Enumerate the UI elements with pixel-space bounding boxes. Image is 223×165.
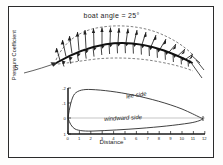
svg-text:0: 0: [64, 116, 67, 121]
x-axis-label: Distance: [0, 138, 223, 145]
svg-text:-2: -2: [62, 86, 66, 91]
figure-container: boat angle = 25° S: [0, 0, 223, 165]
y-axis-label: Pressure Coefficient: [11, 25, 17, 85]
y-tick-labels: -2 -1 0 1: [62, 86, 67, 137]
svg-text:-1: -1: [62, 101, 66, 106]
